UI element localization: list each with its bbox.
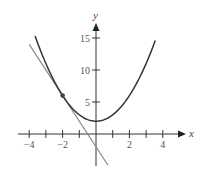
x-tick-label: −4 — [24, 139, 35, 150]
y-axis-label: y — [92, 9, 98, 21]
x-axis: −4−224 x — [18, 127, 194, 150]
y-tick-label: 15 — [80, 33, 90, 44]
x-axis-arrow-icon — [178, 131, 186, 138]
parabola-curve — [35, 36, 155, 121]
chart: −4−224 x 51015 y — [0, 0, 201, 171]
y-tick-label: 10 — [80, 65, 90, 76]
x-axis-label: x — [188, 127, 194, 139]
point-of-tangency — [60, 93, 65, 98]
y-axis: 51015 y — [80, 9, 100, 166]
y-axis-arrow-icon — [93, 23, 100, 31]
x-tick-label: −2 — [57, 139, 68, 150]
y-tick-label: 5 — [85, 97, 90, 108]
x-tick-label: 2 — [127, 139, 132, 150]
x-tick-label: 4 — [160, 139, 165, 150]
